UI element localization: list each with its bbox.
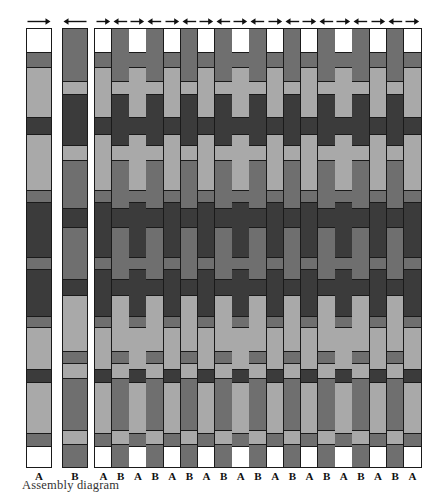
strip-segment	[249, 279, 265, 295]
strip-segment	[164, 202, 180, 258]
direction-arrow-right	[129, 16, 146, 27]
strip-segment	[198, 117, 214, 135]
strip-segment	[198, 202, 214, 258]
strip-segment	[112, 208, 128, 227]
strip-segment	[232, 369, 248, 383]
strip-segment	[335, 433, 351, 446]
strip-segment	[335, 52, 351, 68]
strip-segment	[249, 351, 265, 364]
strip-segment	[129, 134, 145, 190]
strip-segment	[301, 134, 317, 190]
strip-segment	[267, 117, 283, 135]
strip-segment	[352, 378, 368, 430]
strip-segment	[318, 145, 334, 160]
strip-segment	[387, 145, 403, 160]
strip-segment	[232, 29, 248, 53]
strip-segment	[198, 257, 214, 270]
strip-segment	[370, 67, 386, 117]
strip-segment	[352, 145, 368, 160]
strip-segment	[249, 145, 265, 160]
strip-segment	[370, 257, 386, 270]
direction-arrow-right	[335, 16, 352, 27]
strip-segment	[318, 227, 334, 279]
warp-column-a-6	[198, 29, 215, 467]
strip-segment	[112, 295, 128, 351]
strip-segment	[370, 190, 386, 202]
warp-column-b-11	[284, 29, 301, 467]
strip-segment	[198, 190, 214, 202]
strip-segment	[267, 369, 283, 383]
strip-segment	[404, 52, 421, 68]
label-column-14-a: A	[335, 470, 352, 482]
strip-segment	[301, 433, 317, 446]
strip-segment	[146, 279, 162, 295]
strip-segment	[318, 94, 334, 146]
warp-column-b-17	[387, 29, 404, 467]
strip-segment	[181, 444, 197, 467]
strip-segment	[95, 190, 111, 202]
warp-column-b-1	[112, 29, 129, 467]
strip-segment	[352, 430, 368, 444]
strip-segment	[129, 446, 145, 467]
strip-segment	[318, 81, 334, 94]
strip-segment	[404, 369, 421, 383]
strip-segment	[387, 94, 403, 146]
direction-arrow-right	[370, 16, 387, 27]
strip-segment	[284, 145, 300, 160]
strip-segment	[112, 29, 128, 81]
strip-segment	[387, 81, 403, 94]
strip-segment	[27, 446, 51, 468]
strip-segment	[352, 295, 368, 351]
strip-segment	[215, 363, 231, 378]
strip-segment	[318, 279, 334, 295]
strip-segment	[352, 444, 368, 467]
strip-segment	[387, 430, 403, 444]
strip-segment	[249, 208, 265, 227]
strip-segment	[181, 29, 197, 81]
strip-segment	[318, 29, 334, 81]
strip-segment	[146, 227, 162, 279]
strip-segment	[27, 117, 51, 135]
strip-segment	[352, 94, 368, 146]
direction-arrow-right	[198, 16, 215, 27]
label-column-17-b: B	[387, 470, 404, 482]
warp-column-a-8	[232, 29, 249, 467]
strip-segment	[95, 134, 111, 190]
warp-column-a-4	[164, 29, 181, 467]
strip-segment	[164, 257, 180, 270]
strip-segment	[335, 269, 351, 316]
strip-segment	[146, 378, 162, 430]
strip-segment	[301, 327, 317, 369]
strip-segment	[146, 351, 162, 364]
direction-arrow-left	[146, 16, 163, 27]
strip-segment	[301, 382, 317, 433]
strip-segment	[301, 202, 317, 258]
strip-segment	[129, 52, 145, 68]
strip-segment	[95, 29, 111, 53]
strip-segment	[352, 351, 368, 364]
strip-segment	[267, 202, 283, 258]
strip-segment	[112, 430, 128, 444]
strip-segment	[27, 29, 51, 53]
strip-segment	[267, 269, 283, 316]
strip-segment	[335, 67, 351, 117]
strip-segment	[215, 444, 231, 467]
label-column-2-a: A	[129, 470, 146, 482]
warp-column-b-13	[318, 29, 335, 467]
strip-segment	[164, 433, 180, 446]
strip-segment	[284, 351, 300, 364]
strip-segment	[164, 382, 180, 433]
strip-segment	[146, 145, 162, 160]
strip-segment	[249, 29, 265, 81]
strip-segment	[232, 134, 248, 190]
strip-segment	[387, 29, 403, 81]
direction-arrow-right	[301, 16, 318, 27]
strip-segment	[284, 81, 300, 94]
strip-segment	[164, 369, 180, 383]
strip-segment	[387, 295, 403, 351]
strip-segment	[215, 208, 231, 227]
strip-segment	[387, 208, 403, 227]
strip-segment	[335, 134, 351, 190]
strip-segment	[146, 295, 162, 351]
strip-segment	[267, 67, 283, 117]
